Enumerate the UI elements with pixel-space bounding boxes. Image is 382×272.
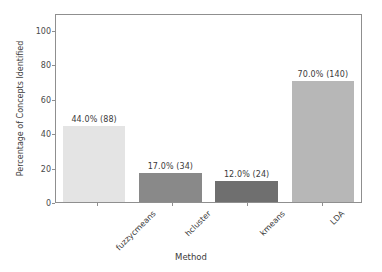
- y-tick-mark-0: [52, 203, 55, 204]
- x-tick-mark-kmeans: [247, 203, 248, 206]
- x-tick-label-kmeans: kmeans: [258, 209, 287, 238]
- bar-value-label-fuzzycmeans: 44.0% (88): [71, 115, 116, 124]
- bar-hcluster[interactable]: [139, 173, 202, 202]
- bar-chart-figure: Percentage of Concepts Identified 0 20 4…: [0, 0, 382, 272]
- x-tick-mark-hcluster: [172, 203, 173, 206]
- x-tick-label-fuzzycmeans: fuzzycmeans: [114, 209, 157, 252]
- y-axis-label: Percentage of Concepts Identified: [14, 14, 28, 203]
- bar-value-label-kmeans: 12.0% (24): [224, 170, 269, 179]
- plot-area: 44.0% (88) 17.0% (34) 12.0% (24) 70.0% (…: [55, 14, 362, 203]
- y-axis-tick-labels: 0 20 40 60 80 100: [30, 0, 51, 272]
- y-tick-label-100: 100: [36, 27, 51, 36]
- x-tick-label-hcluster: hcluster: [183, 209, 212, 238]
- x-tick-label-lda: LDA: [329, 209, 347, 227]
- y-tick-label-20: 20: [41, 164, 51, 173]
- bar-lda[interactable]: [292, 81, 355, 202]
- y-tick-label-60: 60: [41, 95, 51, 104]
- x-tick-mark-lda: [322, 203, 323, 206]
- bar-kmeans[interactable]: [215, 181, 278, 202]
- x-tick-mark-fuzzycmeans: [97, 203, 98, 206]
- y-tick-label-80: 80: [41, 61, 51, 70]
- bar-fuzzycmeans[interactable]: [63, 126, 126, 202]
- x-axis-label: Method: [0, 252, 382, 262]
- bar-value-label-hcluster: 17.0% (34): [148, 162, 193, 171]
- y-tick-label-40: 40: [41, 130, 51, 139]
- bar-value-label-lda: 70.0% (140): [298, 70, 349, 79]
- y-tick-label-0: 0: [46, 199, 51, 208]
